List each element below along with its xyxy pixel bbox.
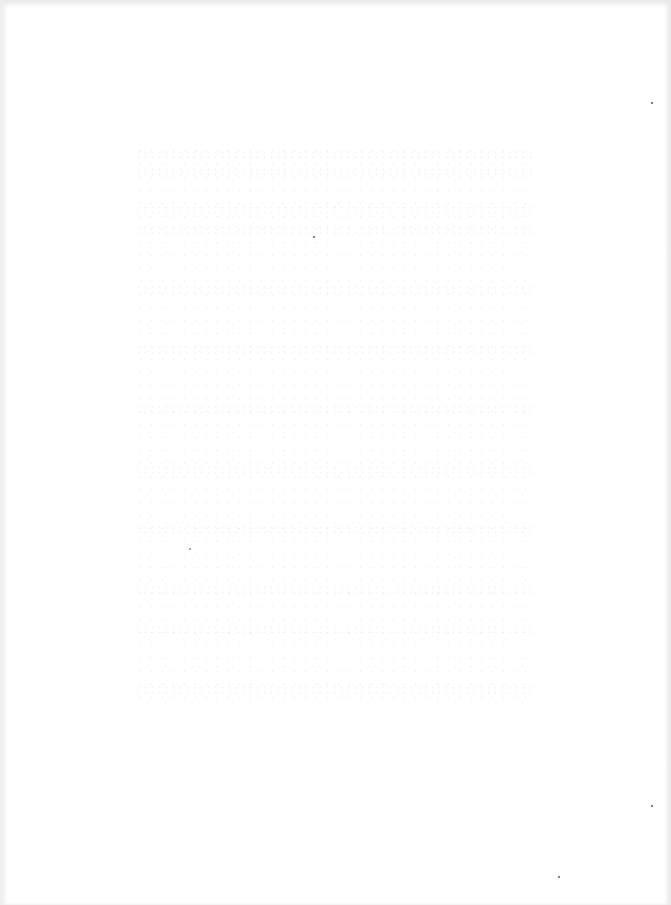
bleed-line [135,525,535,535]
page-top-shadow [0,0,671,8]
bleed-line [135,205,535,215]
bleed-line [135,465,535,475]
bleed-line [135,285,535,295]
bleed-line [135,405,535,415]
bleed-line [135,225,535,235]
bleed-line [135,625,535,635]
bleed-through-text-area [135,145,535,705]
scan-speck [558,876,560,878]
scan-speck [651,805,653,807]
bleed-line [135,685,535,695]
blank-scanned-page [0,0,671,905]
page-left-shadow [0,0,8,905]
bleed-line [135,150,535,160]
scan-speck [313,236,315,238]
bleed-line [135,167,535,177]
bleed-line [135,345,535,355]
bleed-line [135,585,535,595]
scan-speck [651,102,653,104]
page-right-shadow [665,0,671,905]
scan-speck [189,548,191,550]
